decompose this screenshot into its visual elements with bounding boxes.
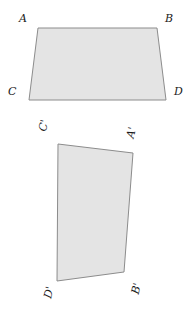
vertex-label-d-prime: D' — [42, 285, 56, 299]
upper-quadrilateral — [29, 28, 166, 100]
vertex-label-c-prime: C' — [37, 119, 50, 133]
geometry-diagram — [0, 0, 190, 310]
vertex-label-b-prime: B' — [130, 282, 143, 295]
vertex-label-a: A — [19, 13, 27, 24]
vertex-label-c: C — [8, 86, 16, 97]
vertex-label-b: B — [165, 13, 173, 24]
vertex-label-a-prime: A' — [125, 126, 138, 139]
lower-quadrilateral — [57, 144, 133, 281]
vertex-label-d: D — [174, 86, 183, 97]
figure-canvas: A B C D A' B' C' D' — [0, 0, 190, 310]
